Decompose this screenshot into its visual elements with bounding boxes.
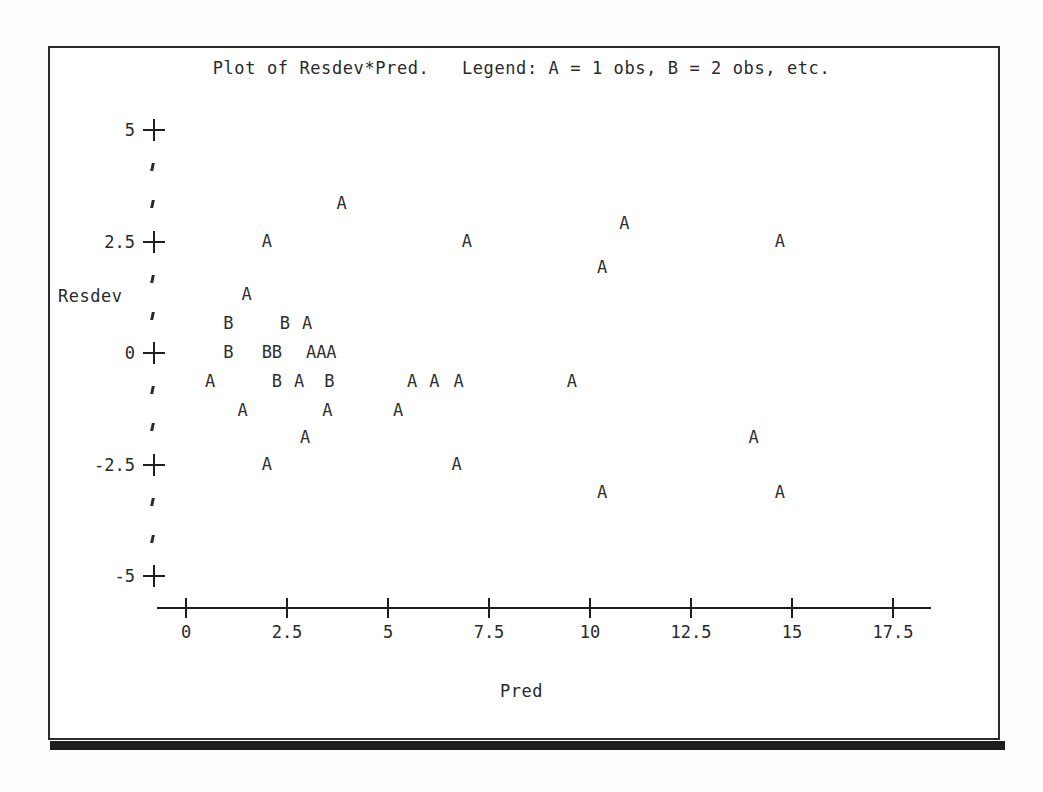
data-point-marker: A [324,344,338,361]
y-tick-mark-major [153,231,155,253]
data-point-marker: A [292,373,306,390]
data-point-marker: A [460,233,474,250]
y-tick-mark-minor [150,275,155,283]
data-point-marker: B [221,315,235,332]
data-point-marker: A [427,373,441,390]
data-point-marker: A [450,456,464,473]
y-tick-label: -5 [35,566,135,586]
x-tick-mark [387,598,389,618]
x-tick-label: 2.5 [247,622,327,642]
y-tick-label: 2.5 [35,232,135,252]
data-point-marker: B [270,373,284,390]
y-tick-mark-minor [150,312,155,320]
data-point-marker: A [335,195,349,212]
y-tick-mark-major [153,342,155,364]
x-tick-label: 10 [550,622,630,642]
data-point-marker: A [773,233,787,250]
data-point-marker: A [773,484,787,501]
x-tick-mark [690,598,692,618]
data-point-marker: A [298,429,312,446]
y-tick-mark-minor [150,200,155,208]
data-point-marker: A [320,402,334,419]
y-tick-mark-major [153,565,155,587]
y-tick-label: 0 [35,343,135,363]
y-tick-mark-major [153,454,155,476]
data-point-marker: A [565,373,579,390]
data-point-marker: A [236,402,250,419]
data-point-marker: B [278,315,292,332]
x-tick-label: 5 [348,622,428,642]
x-tick-label: 0 [146,622,226,642]
data-point-marker: A [391,402,405,419]
data-point-marker: A [747,429,761,446]
data-point-marker: B [221,344,235,361]
x-tick-label: 15 [752,622,832,642]
page-background: Plot of Resdev*Pred. Legend: A = 1 obs, … [0,0,1043,792]
x-tick-mark [286,598,288,618]
y-tick-label: -2.5 [35,455,135,475]
data-point-marker: A [405,373,419,390]
y-tick-mark-minor [150,498,155,506]
data-point-marker: A [300,315,314,332]
x-tick-mark [488,598,490,618]
x-tick-mark [589,598,591,618]
x-axis-line [157,607,931,609]
y-tick-mark-minor [150,535,155,543]
x-tick-mark [185,598,187,618]
x-tick-label: 17.5 [853,622,933,642]
y-tick-label: 5 [35,120,135,140]
data-point-marker: A [617,215,631,232]
y-tick-mark-minor [150,386,155,394]
x-tick-label: 12.5 [651,622,731,642]
y-tick-mark-minor [150,163,155,171]
y-tick-mark-minor [150,423,155,431]
data-point-marker: A [452,373,466,390]
plot-area: 02.557.51012.51517.5 52.50-2.5-5 AAAAAAA… [0,0,1043,792]
data-point-marker: A [203,373,217,390]
x-tick-label: 7.5 [449,622,529,642]
data-point-marker: A [595,484,609,501]
x-tick-mark [892,598,894,618]
y-tick-mark-major [153,119,155,141]
data-point-marker: A [260,456,274,473]
data-point-marker: A [595,259,609,276]
data-point-marker: A [260,233,274,250]
data-point-marker: A [240,286,254,303]
data-point-marker: B [270,344,284,361]
x-tick-mark [791,598,793,618]
data-point-marker: B [322,373,336,390]
